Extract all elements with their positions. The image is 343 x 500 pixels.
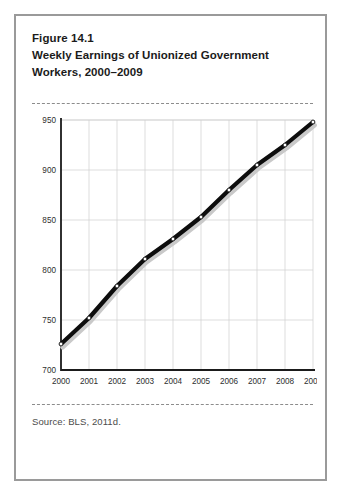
x-tick-label: 2005 [192,377,211,386]
y-tick-label: 850 [42,216,56,225]
x-tick-label: 2003 [136,377,155,386]
data-point-marker [59,342,63,346]
figure-inner: Figure 14.1 Weekly Earnings of Unionized… [16,16,325,479]
data-point-marker [227,188,231,192]
figure-title-line-2: Workers, 2000–2009 [32,64,314,80]
data-point-marker [87,316,91,320]
x-tick-label: 2007 [248,377,267,386]
data-point-marker [283,143,287,147]
data-point-marker [199,215,203,219]
y-tick-label: 950 [42,116,56,125]
data-point-marker [255,163,259,167]
data-point-marker [143,257,147,261]
y-tick-label: 750 [42,316,56,325]
x-tick-label: 2006 [220,377,239,386]
x-axis-tick-labels: 2000200120022003200420052006200720082009 [52,377,317,386]
x-tick-label: 2000 [52,377,71,386]
source-note: Source: BLS, 2011d. [32,416,121,427]
figure-title-block: Figure 14.1 Weekly Earnings of Unionized… [32,30,314,80]
data-point-marker [311,120,315,124]
x-tick-label: 2004 [164,377,183,386]
chart-area: 700750800850900950 200020012002200320042… [32,112,317,402]
figure-number: Figure 14.1 [32,30,314,46]
x-tick-label: 2009 [304,377,317,386]
y-tick-label: 700 [42,366,56,375]
source-divider [32,404,313,405]
y-tick-label: 800 [42,266,56,275]
x-tick-label: 2002 [108,377,127,386]
data-point-marker [115,284,119,288]
series-shadow [63,125,315,347]
figure-title-line-1: Weekly Earnings of Unionized Government [32,47,314,63]
x-tick-label: 2001 [80,377,99,386]
data-point-marker [171,237,175,241]
line-chart: 700750800850900950 200020012002200320042… [32,112,317,402]
x-tick-label: 2008 [276,377,295,386]
figure-container: Figure 14.1 Weekly Earnings of Unionized… [14,14,327,481]
y-axis-tick-labels: 700750800850900950 [42,116,56,375]
title-divider [32,103,313,104]
y-tick-label: 900 [42,166,56,175]
